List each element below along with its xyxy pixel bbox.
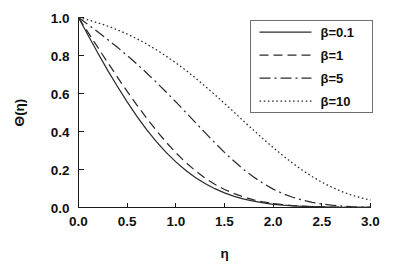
y-tick-label: 0.0 — [51, 201, 70, 216]
x-tick-label: 0.0 — [69, 214, 88, 229]
chart-legend: β=0.1β=1β=5β=10 — [251, 21, 373, 113]
x-tick-label: 2.5 — [312, 214, 331, 229]
y-tick-label: 0.2 — [51, 163, 70, 178]
y-tick-label: 0.8 — [51, 49, 70, 64]
legend-label: β=0.1 — [321, 25, 355, 40]
x-tick-label: 2.0 — [264, 214, 283, 229]
legend-frame — [251, 21, 373, 113]
y-tick-label: 0.6 — [51, 87, 70, 102]
x-tick-label: 0.5 — [118, 214, 137, 229]
y-tick-label: 1.0 — [51, 11, 70, 26]
y-tick-label: 0.4 — [51, 125, 70, 140]
chart-figure: 0.00.51.01.52.02.53.0 0.00.20.40.60.81.0… — [0, 0, 402, 276]
x-tick-label: 1.5 — [215, 214, 234, 229]
x-axis-title: η — [220, 246, 228, 261]
legend-label: β=1 — [321, 48, 344, 63]
legend-label: β=10 — [321, 94, 351, 109]
legend-label: β=5 — [321, 71, 344, 86]
x-tick-label: 3.0 — [361, 214, 380, 229]
y-axis-title: Θ(η) — [12, 99, 27, 127]
x-tick-label: 1.0 — [166, 214, 185, 229]
line-chart-svg: 0.00.51.01.52.02.53.0 0.00.20.40.60.81.0… — [0, 0, 402, 276]
